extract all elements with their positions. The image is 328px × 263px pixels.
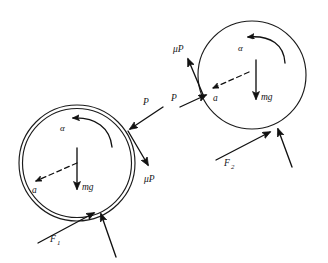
left-ground-friction-subscript: 1	[57, 239, 60, 246]
left-acceleration-label: a	[32, 185, 37, 195]
right-body-group: α a mg P μP F 2	[170, 21, 306, 170]
left-weight-label: mg	[82, 182, 94, 192]
right-weight-label: mg	[261, 92, 273, 102]
left-alpha-curved-arrow	[73, 118, 112, 147]
right-friction-pad-arrow	[188, 59, 204, 97]
right-ground-friction-subscript: 2	[231, 163, 235, 170]
right-ground-friction-arrow	[216, 132, 270, 160]
right-acceleration-arrow	[213, 72, 249, 88]
right-applied-force-label: P	[170, 93, 177, 103]
left-applied-force-label: P	[142, 97, 149, 107]
right-friction-pad-label: μP	[172, 44, 184, 54]
right-alpha-label: α	[238, 43, 243, 53]
left-body-group: α a mg P μP F 1	[19, 97, 163, 257]
right-applied-force-arrow	[180, 95, 206, 107]
right-alpha-curved-arrow	[248, 37, 285, 63]
left-alpha-label: α	[60, 123, 65, 133]
left-ground-friction-label: F	[49, 234, 56, 244]
left-acceleration-arrow	[36, 163, 77, 181]
right-acceleration-label: a	[213, 93, 218, 103]
left-normal-force-arrow	[101, 214, 116, 257]
left-applied-force-arrow	[130, 107, 163, 129]
physics-diagram: α a mg P μP F 1 α	[0, 0, 328, 263]
right-normal-force-arrow	[278, 129, 292, 167]
left-friction-pad-label: μP	[143, 174, 155, 184]
left-ground-friction-arrow	[38, 213, 94, 243]
right-ground-friction-label: F	[223, 158, 230, 168]
diagram-canvas: α a mg P μP F 1 α	[0, 0, 328, 263]
